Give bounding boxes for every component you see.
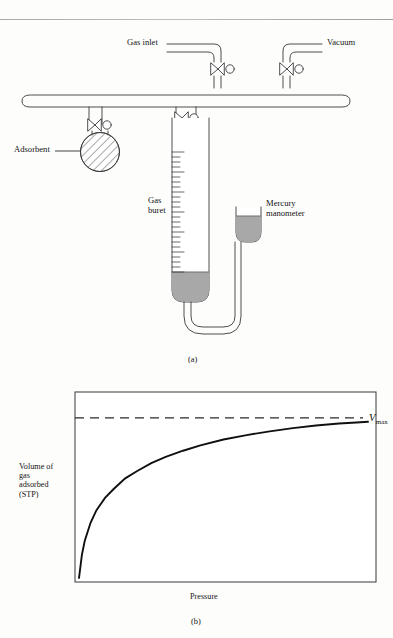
label-mercury-line2: manometer [266, 208, 305, 218]
chart-ylabel-line4: (STP) [19, 490, 39, 499]
label-mercury-manometer: Mercurymanometer [266, 199, 305, 218]
panel-a-apparatus [0, 0, 393, 360]
label-vacuum: Vacuum [327, 38, 355, 48]
caption-panel-b: (b) [191, 617, 201, 626]
caption-panel-a: (a) [188, 355, 197, 364]
label-gas-inlet: Gas inlet [127, 38, 158, 48]
label-mercury-line1: Mercury [266, 198, 296, 208]
panel-b-chart: Vmax [0, 388, 393, 608]
stopcock-adsorbent [88, 119, 111, 131]
label-gas-buret-line2: buret [148, 205, 166, 215]
chart-ylabel: Volume ofgasadsorbed(STP) [19, 462, 53, 499]
chart-xlabel: Pressure [190, 592, 218, 601]
figure-page: Gas inlet Vacuum Adsorbent Gasburet Merc… [0, 0, 393, 638]
stopcock-vacuum [280, 63, 303, 75]
chart-ylabel-line1: Volume of [19, 462, 53, 471]
manifold [22, 95, 350, 107]
stopcock-gas-inlet [211, 63, 234, 75]
chart-ylabel-line2: gas [19, 471, 30, 480]
label-gas-buret-line1: Gas [148, 195, 161, 205]
mercury-manometer [234, 207, 264, 246]
chart-frame [75, 392, 376, 582]
label-adsorbent: Adsorbent [14, 145, 50, 155]
chart-ylabel-line3: adsorbed [19, 480, 49, 489]
adsorbent-flask [78, 130, 124, 176]
label-gas-buret: Gasburet [148, 196, 166, 215]
